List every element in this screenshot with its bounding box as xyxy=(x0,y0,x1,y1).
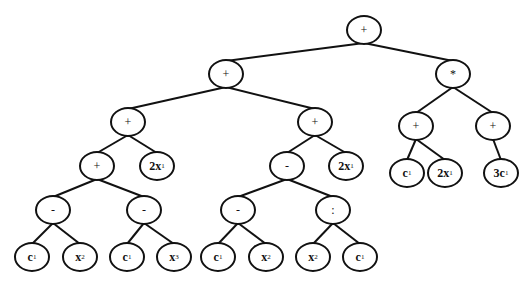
tree-edge xyxy=(53,179,97,197)
tree-edge xyxy=(315,135,346,153)
node-subscript: 1 xyxy=(219,253,223,261)
node-label: + xyxy=(94,159,101,174)
node-label: - xyxy=(51,203,55,218)
node-label: 3c xyxy=(494,166,505,181)
tree-edge xyxy=(97,179,144,197)
node-label: 2x xyxy=(338,159,350,174)
tree-edge xyxy=(416,139,445,160)
operator-node: + xyxy=(79,151,115,181)
operand-node: c1 xyxy=(342,242,378,272)
tree-edge xyxy=(453,87,493,113)
tree-edge xyxy=(416,87,453,113)
operator-node: + xyxy=(398,111,434,141)
node-label: - xyxy=(142,203,146,218)
tree-edge xyxy=(53,223,80,244)
node-label: : xyxy=(331,203,334,218)
node-subscript: 1 xyxy=(361,253,365,261)
operand-node: 2x1 xyxy=(328,151,364,181)
tree-edge xyxy=(493,139,501,160)
node-label: + xyxy=(312,115,319,130)
node-label: - xyxy=(285,159,289,174)
node-label: + xyxy=(490,119,497,134)
operand-node: c1 xyxy=(389,158,425,188)
node-subscript: 1 xyxy=(449,169,453,177)
node-subscript: 1 xyxy=(505,169,509,177)
operator-node: : xyxy=(315,195,351,225)
node-subscript: 2 xyxy=(314,253,318,261)
node-label: - xyxy=(236,203,240,218)
node-subscript: 1 xyxy=(408,169,412,177)
operator-node: + xyxy=(346,15,382,45)
operator-node: + xyxy=(110,107,146,137)
tree-edge xyxy=(144,223,174,244)
tree-edge xyxy=(226,87,315,109)
node-label: 2x xyxy=(437,166,449,181)
operand-node: c1 xyxy=(109,242,145,272)
tree-edge xyxy=(333,223,360,244)
node-subscript: 1 xyxy=(33,253,37,261)
node-label: 2x xyxy=(149,159,161,174)
tree-edge xyxy=(128,87,226,109)
operand-node: 3c1 xyxy=(483,158,519,188)
node-subscript: 1 xyxy=(128,253,132,261)
operand-node: c1 xyxy=(14,242,50,272)
node-label: + xyxy=(413,119,420,134)
operator-node: + xyxy=(475,111,511,141)
operator-node: + xyxy=(297,107,333,137)
operator-node: - xyxy=(126,195,162,225)
operand-node: x2 xyxy=(248,242,284,272)
node-subscript: 2 xyxy=(267,253,271,261)
operator-node: - xyxy=(35,195,71,225)
tree-edge xyxy=(32,223,53,244)
operand-node: x2 xyxy=(62,242,98,272)
operator-node: - xyxy=(220,195,256,225)
node-subscript: 1 xyxy=(350,162,354,170)
tree-edge xyxy=(226,43,364,61)
tree-edge xyxy=(127,223,144,244)
operator-node: - xyxy=(269,151,305,181)
node-subscript: 3 xyxy=(175,253,179,261)
tree-edge xyxy=(313,223,333,244)
tree-edge xyxy=(287,179,333,197)
operand-node: 2x1 xyxy=(139,151,175,181)
tree-edge xyxy=(238,223,266,244)
node-subscript: 2 xyxy=(81,253,85,261)
tree-edge xyxy=(364,43,453,61)
tree-edge xyxy=(97,135,128,153)
operand-node: 2x1 xyxy=(427,158,463,188)
node-subscript: 1 xyxy=(161,162,165,170)
expression-tree-diagram: ++*+++++2x1-2x1c12x13c1---:c1x2c1x3c1x2x… xyxy=(0,0,528,289)
tree-edge xyxy=(407,139,416,160)
node-label: * xyxy=(450,67,456,82)
operand-node: c1 xyxy=(200,242,236,272)
node-label: + xyxy=(361,23,368,38)
operator-node: + xyxy=(208,59,244,89)
operand-node: x2 xyxy=(295,242,331,272)
node-label: + xyxy=(223,67,230,82)
tree-edge xyxy=(238,179,287,197)
tree-edge xyxy=(218,223,238,244)
operand-node: x3 xyxy=(156,242,192,272)
tree-edge xyxy=(287,135,315,153)
node-label: + xyxy=(125,115,132,130)
operator-node: * xyxy=(435,59,471,89)
